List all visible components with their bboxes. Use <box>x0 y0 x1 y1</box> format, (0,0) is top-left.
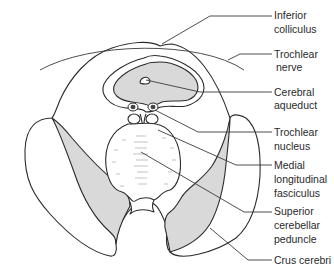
svg-text:aqueduct: aqueduct <box>274 99 317 111</box>
label-superior-cerebellar-peduncle: Superior cerebellar peduncle <box>274 205 321 245</box>
label-inferior-colliculus: Inferior colliculus <box>274 9 317 35</box>
svg-text:Trochlear: Trochlear <box>274 126 318 138</box>
label-trochlear-nerve: Trochlear nerve <box>274 48 318 73</box>
label-crus-cerebri: Crus cerebri <box>274 254 331 266</box>
svg-text:longitudinal: longitudinal <box>274 173 327 185</box>
svg-text:colliculus: colliculus <box>274 23 317 35</box>
svg-text:Medial: Medial <box>274 159 305 171</box>
label-cerebral-aqueduct: Cerebral aqueduct <box>274 86 317 111</box>
tegmentum-lower <box>130 200 154 214</box>
svg-text:Inferior: Inferior <box>274 9 307 21</box>
svg-text:Crus cerebri: Crus cerebri <box>274 254 331 266</box>
svg-text:nucleus: nucleus <box>274 140 310 152</box>
svg-text:fasciculus: fasciculus <box>274 187 320 199</box>
svg-text:peduncle: peduncle <box>274 233 317 245</box>
svg-text:Cerebral: Cerebral <box>274 86 314 98</box>
label-medial-longitudinal-fasciculus: Medial longitudinal fasciculus <box>274 159 327 199</box>
svg-text:Trochlear: Trochlear <box>274 48 318 60</box>
svg-text:nerve: nerve <box>276 61 302 73</box>
label-trochlear-nucleus: Trochlear nucleus <box>274 126 318 152</box>
midbrain-diagram: Inferior colliculus Trochlear nerve Cere… <box>0 0 334 280</box>
svg-text:Superior: Superior <box>274 205 314 217</box>
svg-text:cerebellar: cerebellar <box>274 219 321 231</box>
